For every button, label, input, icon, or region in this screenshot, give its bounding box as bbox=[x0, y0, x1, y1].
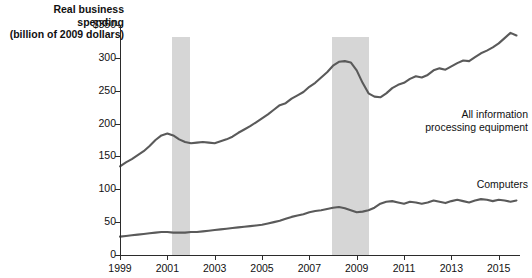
y-tick-label: 50 bbox=[74, 215, 116, 227]
y-tick-label: 300 bbox=[74, 51, 116, 63]
x-tick bbox=[451, 255, 452, 260]
y-tick-label: 200 bbox=[74, 117, 116, 129]
series-label-all-information-processing-equipment: All information processing equipment bbox=[425, 108, 528, 133]
x-tick bbox=[309, 255, 310, 260]
y-axis-line bbox=[120, 25, 121, 255]
x-tick-label: 1999 bbox=[108, 262, 131, 274]
series-lines bbox=[120, 25, 520, 255]
y-tick-label: 100 bbox=[74, 182, 116, 194]
line-computers bbox=[120, 199, 516, 236]
y-tick bbox=[115, 124, 120, 125]
x-tick bbox=[262, 255, 263, 260]
y-tick-label: 250 bbox=[74, 84, 116, 96]
series-label-line1: Computers bbox=[477, 178, 528, 191]
x-axis-line bbox=[120, 255, 520, 256]
series-label-line1: All information bbox=[425, 108, 528, 121]
x-tick-label: 2015 bbox=[487, 262, 510, 274]
x-tick bbox=[499, 255, 500, 260]
y-tick bbox=[115, 25, 120, 26]
x-tick-label: 2011 bbox=[393, 262, 416, 274]
y-axis-labels: 050100150200250300$350 bbox=[64, 0, 116, 278]
y-tick-label: 150 bbox=[74, 149, 116, 161]
x-tick bbox=[215, 255, 216, 260]
y-tick bbox=[115, 189, 120, 190]
x-tick-label: 2007 bbox=[298, 262, 321, 274]
line-all-information-processing-equipment bbox=[120, 33, 516, 166]
plot-area bbox=[120, 25, 520, 255]
x-tick-label: 2009 bbox=[345, 262, 368, 274]
y-tick bbox=[115, 222, 120, 223]
y-tick-label: 0 bbox=[74, 248, 116, 260]
x-tick bbox=[357, 255, 358, 260]
y-tick-label: $350 bbox=[74, 18, 116, 30]
x-tick-label: 2001 bbox=[156, 262, 179, 274]
series-label-line2: processing equipment bbox=[425, 121, 528, 134]
y-tick bbox=[115, 156, 120, 157]
x-tick bbox=[404, 255, 405, 260]
series-label-computers: Computers bbox=[477, 178, 528, 191]
chart-container: Real business spending (billion of 2009 … bbox=[0, 0, 532, 278]
x-tick bbox=[167, 255, 168, 260]
x-tick bbox=[120, 255, 121, 260]
x-tick-label: 2005 bbox=[250, 262, 273, 274]
y-tick bbox=[115, 58, 120, 59]
x-tick-label: 2003 bbox=[203, 262, 226, 274]
x-tick-label: 2013 bbox=[440, 262, 463, 274]
y-tick bbox=[115, 91, 120, 92]
